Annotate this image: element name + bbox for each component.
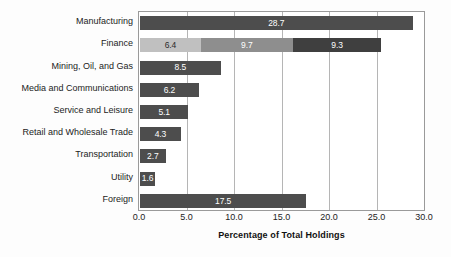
bar-value-label: 6.2 xyxy=(164,86,176,95)
bar-value-label: 8.5 xyxy=(175,63,187,72)
bar-row: 4.3 xyxy=(139,123,424,145)
category-label: Mining, Oil, and Gas xyxy=(51,62,133,71)
x-tick-label: 5.0 xyxy=(180,213,193,222)
bar-row: 28.7 xyxy=(139,12,424,34)
category-label: Media and Communications xyxy=(21,84,133,93)
bar-segment: 2.7 xyxy=(140,149,166,163)
bar-value-label: 6.4 xyxy=(165,41,177,50)
x-tick-label: 10.0 xyxy=(225,213,243,222)
bar-chart: 28.76.49.79.38.56.25.14.32.71.617.5 Manu… xyxy=(0,0,451,257)
bar: 6.49.79.3 xyxy=(140,38,381,52)
category-label: Foreign xyxy=(102,195,133,204)
bar-value-label: 2.7 xyxy=(147,152,159,161)
bar: 17.5 xyxy=(140,194,306,208)
category-label: Service and Leisure xyxy=(53,106,133,115)
x-tick-label: 15.0 xyxy=(273,213,291,222)
bar-row: 6.49.79.3 xyxy=(139,34,424,56)
bar-row: 2.7 xyxy=(139,145,424,167)
x-axis-title: Percentage of Total Holdings xyxy=(138,231,425,240)
bar: 28.7 xyxy=(140,16,413,30)
bar-rows: 28.76.49.79.38.56.25.14.32.71.617.5 xyxy=(139,12,424,210)
bar-value-label: 1.6 xyxy=(142,174,154,183)
bar-segment: 5.1 xyxy=(140,105,188,119)
bar-segment: 6.4 xyxy=(140,38,201,52)
x-tick-label: 20.0 xyxy=(320,213,338,222)
category-label: Utility xyxy=(111,173,133,182)
bar-segment: 9.7 xyxy=(201,38,293,52)
bar-row: 6.2 xyxy=(139,79,424,101)
bar-value-label: 5.1 xyxy=(158,108,170,117)
bar: 4.3 xyxy=(140,127,181,141)
bar-row: 17.5 xyxy=(139,190,424,212)
bar-segment: 28.7 xyxy=(140,16,413,30)
bar: 1.6 xyxy=(140,172,155,186)
bar: 8.5 xyxy=(140,61,221,75)
bar-segment: 17.5 xyxy=(140,194,306,208)
category-axis-labels: ManufacturingFinanceMining, Oil, and Gas… xyxy=(0,11,133,211)
bar-value-label: 9.3 xyxy=(331,41,343,50)
x-tick-label: 25.0 xyxy=(368,213,386,222)
bar-value-label: 28.7 xyxy=(268,19,284,28)
bar: 6.2 xyxy=(140,83,199,97)
bar-segment: 9.3 xyxy=(293,38,381,52)
bar-value-label: 17.5 xyxy=(215,197,231,206)
x-axis-tick-labels: 0.05.010.015.020.025.030.0 xyxy=(138,213,425,227)
bar-row: 1.6 xyxy=(139,168,424,190)
bar-segment: 6.2 xyxy=(140,83,199,97)
bar: 2.7 xyxy=(140,149,166,163)
bar-row: 5.1 xyxy=(139,101,424,123)
bar-segment: 8.5 xyxy=(140,61,221,75)
plot-area: 28.76.49.79.38.56.25.14.32.71.617.5 xyxy=(138,11,425,211)
category-label: Manufacturing xyxy=(76,17,133,26)
category-label: Retail and Wholesale Trade xyxy=(22,128,133,137)
x-tick-label: 0.0 xyxy=(133,213,146,222)
category-label: Finance xyxy=(101,39,133,48)
bar-row: 8.5 xyxy=(139,56,424,78)
x-tick-label: 30.0 xyxy=(415,213,433,222)
gridline xyxy=(424,12,425,210)
bar-value-label: 9.7 xyxy=(241,41,253,50)
bar-segment: 1.6 xyxy=(140,172,155,186)
bar-value-label: 4.3 xyxy=(155,130,167,139)
category-label: Transportation xyxy=(75,150,133,159)
bar-segment: 4.3 xyxy=(140,127,181,141)
bar: 5.1 xyxy=(140,105,188,119)
